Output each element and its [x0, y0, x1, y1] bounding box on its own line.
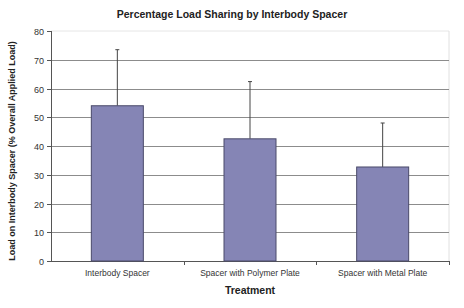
y-tick-label: 40	[34, 142, 44, 152]
y-tick-label: 50	[34, 113, 44, 123]
y-tick-label: 80	[34, 27, 44, 37]
bar-interbody-spacer	[91, 106, 143, 261]
x-category-label: Spacer with Metal Plate	[338, 268, 428, 278]
y-tick-label: 10	[34, 228, 44, 238]
y-tick-label: 70	[34, 56, 44, 66]
y-tick-label: 30	[34, 171, 44, 181]
bar-spacer-with-metal-plate	[357, 167, 409, 261]
y-tick-label: 20	[34, 200, 44, 210]
x-category-label: Interbody Spacer	[85, 268, 150, 278]
bar-spacer-with-polymer-plate	[224, 139, 276, 261]
y-tick-label: 60	[34, 85, 44, 95]
bar-chart: 01020304050607080Interbody SpacerSpacer …	[0, 0, 464, 308]
x-category-label: Spacer with Polymer Plate	[200, 268, 300, 278]
y-tick-label: 0	[39, 257, 44, 267]
